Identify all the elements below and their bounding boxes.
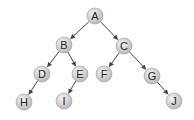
node-d: D	[34, 66, 50, 82]
nodes-layer: ABCDEFGHIJ	[16, 8, 182, 110]
edge-g-j	[157, 82, 168, 94]
node-label: D	[38, 68, 46, 80]
node-e: E	[72, 66, 88, 82]
node-i: I	[56, 93, 72, 109]
node-label: G	[148, 70, 157, 82]
edge-d-h	[29, 81, 38, 95]
node-a: A	[87, 8, 103, 24]
edge-c-g	[129, 52, 145, 70]
node-label: B	[60, 39, 67, 51]
node-j: J	[166, 93, 182, 109]
node-label: J	[171, 95, 177, 107]
edge-e-i	[69, 81, 76, 93]
edges-layer	[29, 21, 168, 94]
node-g: G	[144, 68, 160, 84]
tree-diagram: ABCDEFGHIJ	[0, 0, 194, 120]
node-h: H	[16, 94, 32, 110]
node-label: H	[20, 96, 28, 108]
node-label: A	[91, 10, 99, 22]
node-f: F	[96, 66, 112, 82]
node-c: C	[116, 38, 132, 54]
node-b: B	[56, 37, 72, 53]
node-label: F	[101, 68, 108, 80]
edge-b-d	[47, 51, 59, 66]
node-label: C	[120, 40, 128, 52]
edge-a-b	[71, 21, 90, 38]
edge-c-f	[109, 53, 119, 67]
node-label: I	[62, 95, 65, 107]
node-label: E	[76, 68, 83, 80]
edge-b-e	[68, 52, 76, 66]
edge-a-c	[101, 22, 118, 40]
